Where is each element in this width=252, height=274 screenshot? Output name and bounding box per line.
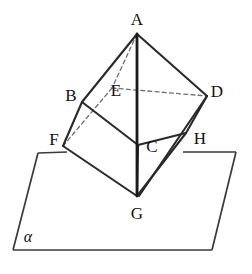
edge-E-D-hidden <box>112 88 207 96</box>
vertex-label-b: B <box>65 87 76 104</box>
edge-B-F <box>63 102 82 146</box>
solid-edges <box>63 34 207 196</box>
vertex-label-c: C <box>146 138 157 155</box>
plane-right-edge <box>212 152 236 250</box>
vertex-label-g: G <box>131 205 143 222</box>
plane-alpha-outline <box>13 152 236 250</box>
vertex-label-f: F <box>49 131 58 148</box>
plane-alpha-label: α <box>24 229 32 245</box>
plane-top-edge-left <box>38 152 67 153</box>
edge-F-G <box>63 146 137 196</box>
vertex-label-h: H <box>194 130 206 147</box>
vertex-label-d: D <box>211 83 223 100</box>
edge-A-B <box>82 34 137 102</box>
vertex-label-a: A <box>131 11 143 28</box>
geometry-figure: ABEDFCHG α <box>0 0 252 274</box>
edge-A-D <box>137 34 207 96</box>
figure-canvas <box>0 0 252 274</box>
edge-B-C <box>82 102 138 145</box>
vertex-label-e: E <box>111 82 121 99</box>
